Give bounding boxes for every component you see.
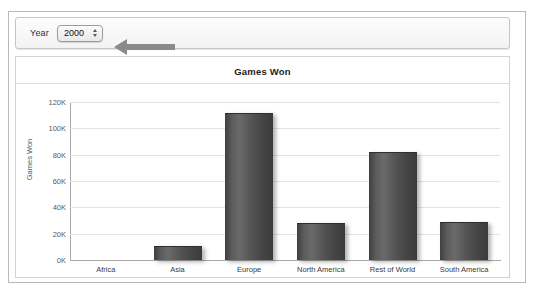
x-axis-tick: Asia: [170, 265, 185, 274]
chevron-down-icon: [93, 34, 97, 37]
plot-area: [70, 102, 500, 260]
gridline: [70, 234, 500, 235]
gridline: [70, 155, 500, 156]
chart-title: Games Won: [16, 66, 509, 77]
y-axis-tick: 0K: [57, 256, 66, 265]
arrow-head: [114, 39, 127, 55]
bar-slot: [225, 113, 273, 260]
gridline: [70, 207, 500, 208]
y-axis-tick: 80K: [53, 150, 66, 159]
year-select-value: 2000: [64, 29, 84, 38]
bar[interactable]: [297, 223, 345, 260]
x-axis-tick: Rest of World: [370, 265, 415, 274]
gridline: [70, 181, 500, 182]
y-axis-tick-labels: 0K20K40K60K80K100K120K: [30, 102, 66, 260]
gridline: [70, 128, 500, 129]
arrow-tail: [127, 44, 175, 50]
y-axis-tick: 20K: [53, 229, 66, 238]
left-arrow-annotation-icon: [114, 39, 176, 55]
y-axis-tick: 120K: [48, 98, 66, 107]
y-axis-tick: 60K: [53, 177, 66, 186]
bar[interactable]: [369, 152, 417, 260]
chevron-up-icon: [93, 29, 97, 32]
year-label: Year: [30, 28, 49, 38]
x-axis-tick: North America: [297, 265, 345, 274]
x-axis-tick: South America: [440, 265, 489, 274]
bar-slot: [154, 246, 202, 260]
y-axis-tick: 100K: [48, 124, 66, 133]
bar-slot: [369, 152, 417, 260]
bar[interactable]: [440, 222, 488, 260]
bar-slot: [297, 223, 345, 260]
x-axis-tick: Africa: [96, 265, 115, 274]
up-down-stepper-icon[interactable]: [91, 27, 98, 40]
x-axis-tick: Europe: [237, 265, 261, 274]
filter-toolbar: Year 2000: [15, 17, 510, 49]
application-window: Year 2000 Games Won Games Won 0K20K40K60…: [8, 11, 526, 283]
bar[interactable]: [154, 246, 202, 260]
year-select[interactable]: 2000: [57, 25, 103, 42]
y-axis-tick: 40K: [53, 203, 66, 212]
title-separator: [16, 83, 509, 84]
x-axis-line: [70, 260, 501, 261]
bar[interactable]: [225, 113, 273, 260]
gridline: [70, 102, 500, 103]
bar-slot: [440, 222, 488, 260]
chart-panel: Games Won Games Won 0K20K40K60K80K100K12…: [15, 56, 510, 278]
